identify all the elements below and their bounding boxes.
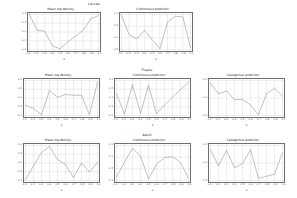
x-tick-label: 0.6 <box>155 184 159 187</box>
y-tick-label: 0.4 <box>22 12 26 15</box>
line-chart-svg <box>24 144 99 182</box>
series-line <box>211 83 283 114</box>
x-tick-label: 0.5 <box>150 53 154 56</box>
x-tick-label: 0.9 <box>88 119 92 122</box>
x-tick-label: 0.7 <box>72 184 76 187</box>
x-tick-label: 0.7 <box>74 53 78 56</box>
x-tick-label: 0.3 <box>39 119 43 122</box>
x-tick-label: 0.5 <box>146 184 150 187</box>
y-axis-labels: -1.0-0.50.00.51.0 <box>14 78 23 118</box>
panel-subtitle: Mean log density <box>14 138 102 142</box>
x-tick-label: 0.6 <box>249 119 253 122</box>
panel-subtitle: Categorical predictor <box>199 138 287 142</box>
y-tick-label: 0.5 <box>109 88 113 91</box>
x-tick-label: 0.2 <box>216 119 220 122</box>
x-axis-title: x <box>208 124 285 127</box>
y-tick-label: -1.0 <box>108 180 113 183</box>
x-tick-label: 0.7 <box>166 53 170 56</box>
x-tick-label: 1.0 <box>281 119 285 122</box>
x-tick-label: 0.9 <box>90 53 94 56</box>
x-tick-label: 1.0 <box>190 53 194 56</box>
x-tick-label: 0.5 <box>55 184 59 187</box>
y-axis-labels: -0.4-0.20.00.20.4 <box>18 12 27 52</box>
y-axis-labels: -1.0-0.50.00.51.0 <box>14 143 23 183</box>
small-multiples-figure: Larvae Mean log density -0.4-0.20.00.20.… <box>0 0 297 198</box>
y-tick-label: 0.0 <box>114 37 118 40</box>
x-tick-label: 0.1 <box>23 119 27 122</box>
x-tick-label: 0.3 <box>130 119 134 122</box>
x-tick-label: 0.4 <box>138 119 142 122</box>
y-tick-label: -0.2 <box>21 40 26 43</box>
x-tick-label: 0.9 <box>88 184 92 187</box>
x-tick-label: 0.4 <box>47 184 51 187</box>
x-tick-label: 0.9 <box>182 53 186 56</box>
x-tick-label: 0.4 <box>142 53 146 56</box>
x-tick-label: 1.0 <box>187 119 191 122</box>
y-tick-label: 0.2 <box>22 22 26 25</box>
x-tick-label: 0.1 <box>114 119 118 122</box>
x-tick-label: 0.3 <box>39 184 43 187</box>
x-tick-label: 0.3 <box>42 53 46 56</box>
x-tick-label: 0.8 <box>174 53 178 56</box>
x-tick-label: 0.9 <box>179 119 183 122</box>
x-tick-label: 0.6 <box>64 119 68 122</box>
y-tick-label: 0.0 <box>203 162 207 165</box>
plot-area <box>27 12 101 52</box>
x-tick-label: 0.8 <box>80 184 84 187</box>
plot-area <box>23 143 100 183</box>
line-chart-svg <box>209 144 284 182</box>
y-tick-label: 1.0 <box>114 12 118 15</box>
y-tick-label: 0.0 <box>18 162 22 165</box>
x-axis-title: x <box>208 189 285 192</box>
x-tick-label: 0.4 <box>138 184 142 187</box>
y-axis-labels: -1.0-0.50.00.5 <box>105 143 114 183</box>
x-tick-label: 0.9 <box>273 119 277 122</box>
x-tick-label: 1.0 <box>98 53 102 56</box>
x-tick-label: 0.4 <box>232 119 236 122</box>
panel-adult-categorical: Categorical predictor -0.50.00.5 0.10.20… <box>199 138 287 196</box>
x-tick-label: 1.0 <box>281 184 285 187</box>
x-tick-label: 0.2 <box>216 184 220 187</box>
y-axis-labels: -0.50.00.51.0 <box>110 12 119 52</box>
x-tick-label: 0.1 <box>26 53 30 56</box>
x-tick-label: 0.3 <box>224 119 228 122</box>
y-tick-label: 1.0 <box>109 78 113 81</box>
x-tick-label: 0.2 <box>122 119 126 122</box>
y-tick-label: 0.0 <box>18 97 22 100</box>
x-tick-label: 0.5 <box>55 119 59 122</box>
panel-subtitle: Continuous predictor <box>105 138 193 142</box>
x-tick-label: 0.4 <box>50 53 54 56</box>
y-axis-labels: -0.50.00.5 <box>199 143 208 183</box>
y-tick-label: -0.5 <box>108 168 113 171</box>
x-tick-label: 0.6 <box>64 184 68 187</box>
x-tick-label: 0.7 <box>163 184 167 187</box>
x-tick-label: 0.2 <box>126 53 130 56</box>
line-chart-svg <box>120 13 192 51</box>
series-line <box>29 15 98 49</box>
y-tick-label: -0.5 <box>108 106 113 109</box>
x-axis-title: x <box>23 189 100 192</box>
row-title-larvae: Larvae <box>19 2 169 6</box>
panel-row-pupae: Pupae Mean log density -1.0-0.50.00.51.0… <box>0 68 297 132</box>
x-tick-label: 0.8 <box>171 119 175 122</box>
y-tick-label: 0.0 <box>109 97 113 100</box>
y-tick-label: -0.4 <box>21 49 26 52</box>
panel-row-adult: Adult Mean log density -1.0-0.50.00.51.0… <box>0 133 297 198</box>
x-tick-label: 0.5 <box>240 119 244 122</box>
y-tick-label: 0.0 <box>109 156 113 159</box>
panel-larvae-density: Mean log density -0.4-0.20.00.20.4 0.10.… <box>18 7 103 65</box>
y-tick-label: -0.5 <box>202 180 207 183</box>
x-tick-label: 0.1 <box>208 119 212 122</box>
x-tick-label: 0.8 <box>171 184 175 187</box>
y-axis-labels: -1.0-0.50.00.51.0 <box>105 78 114 118</box>
y-tick-label: -0.5 <box>17 171 22 174</box>
x-axis-title: x <box>114 189 191 192</box>
panel-pupae-density: Mean log density -1.0-0.50.00.51.0 0.10.… <box>14 73 102 131</box>
x-tick-label: 0.2 <box>34 53 38 56</box>
y-tick-label: 0.5 <box>114 25 118 28</box>
series-line <box>117 148 189 179</box>
y-tick-label: 0.5 <box>109 143 113 146</box>
plot-area <box>23 78 100 118</box>
x-tick-label: 0.6 <box>249 184 253 187</box>
line-chart-svg <box>115 144 190 182</box>
